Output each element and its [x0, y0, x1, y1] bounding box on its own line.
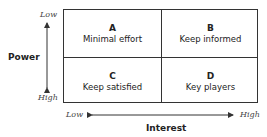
interest-high-label: High: [240, 110, 260, 119]
quadrant-text: Key players: [186, 82, 235, 93]
power-axis-label: Power: [8, 52, 40, 62]
quadrant-text: Minimal effort: [83, 34, 142, 45]
quadrant-d: D Key players: [162, 58, 259, 105]
quadrant-letter: D: [207, 71, 214, 82]
quadrant-letter: B: [207, 23, 214, 34]
quadrant-text: Keep informed: [180, 34, 242, 45]
power-low-label: Low: [40, 10, 57, 19]
quadrant-c: C Keep satisfied: [64, 58, 161, 105]
quadrant-b: B Keep informed: [162, 10, 259, 57]
quadrant-letter: A: [109, 23, 116, 34]
power-high-label: High: [38, 93, 58, 102]
quadrant-a: A Minimal effort: [64, 10, 161, 57]
interest-low-label: Low: [66, 110, 83, 119]
stakeholder-matrix: A Minimal effort B Keep informed C Keep …: [63, 9, 258, 103]
interest-axis-label: Interest: [146, 123, 186, 133]
quadrant-text: Keep satisfied: [83, 82, 142, 93]
quadrant-letter: C: [109, 71, 116, 82]
